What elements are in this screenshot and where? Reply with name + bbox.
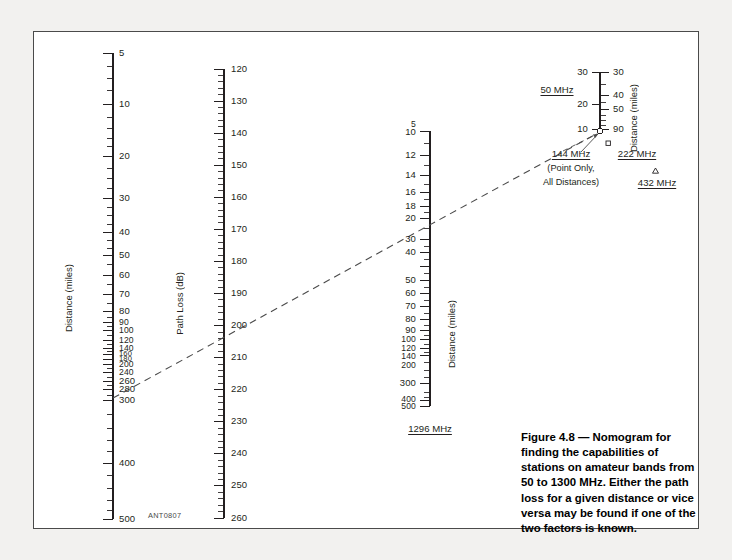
axis-3-tick-label: 40 <box>405 247 416 257</box>
axis-1-tick-label: 20 <box>119 151 130 161</box>
axis-1-tick-label: 500 <box>119 514 135 524</box>
axis-3-tick-label: 18 <box>405 201 416 211</box>
axis-3-tick-label: 60 <box>405 288 416 298</box>
axis-4-right-tick-label: 50 <box>613 104 624 114</box>
axis-2-tick-label: 190 <box>231 288 247 298</box>
axis-3-tick-label: 500 <box>401 402 416 411</box>
axis-3-tick-label: 300 <box>400 378 416 388</box>
axis-2-tick-label: 250 <box>231 480 247 490</box>
axis-3-tick-label: 200 <box>401 361 416 370</box>
axis-4-left-tick-label: 10 <box>577 124 588 134</box>
axis-1-tick-label: 40 <box>119 227 130 237</box>
axis-3-tick-label: 14 <box>405 170 416 180</box>
band-label-432: 432 MHz <box>638 177 676 188</box>
axis-1-tick-label: 60 <box>119 270 130 280</box>
band-label-144: 144 MHz <box>552 148 590 159</box>
axis-1-tick-label: 30 <box>119 193 130 203</box>
axis-2-tick-label: 220 <box>231 384 247 394</box>
axis-1-tick-label: 50 <box>119 250 130 260</box>
axis-2-tick-label: 260 <box>231 513 247 523</box>
axis-3-tick-label: 16 <box>405 187 416 197</box>
axis-1-tick-label: 10 <box>119 99 130 109</box>
axis-3-tick-label: 10 <box>405 127 416 137</box>
axis-2-tick-label: 210 <box>231 352 247 362</box>
axis-2-tick-label: 240 <box>231 448 247 458</box>
axis-1-tick-label: 400 <box>119 458 135 468</box>
axis-4-right-tick-label: 40 <box>613 90 624 100</box>
nomogram-text-layer: Distance (miles) 5 10 20 30 40 50 60 70 … <box>0 0 732 560</box>
band-note-144-line2: All Distances) <box>543 177 599 187</box>
axis-2-tick-label: 150 <box>231 160 247 170</box>
axis-1-title: Distance (miles) <box>63 264 74 332</box>
axis-2-tick-label: 140 <box>231 128 247 138</box>
axis-3-tick-label: 30 <box>405 234 416 244</box>
axis-1-tick-label: 80 <box>119 306 130 316</box>
band-note-144-line1: (Point Only, <box>547 163 594 173</box>
axis-4-right-tick-label: 90 <box>613 124 624 134</box>
axis-3-tick-label: 50 <box>405 275 416 285</box>
axis-1-tick-label: 70 <box>119 289 130 299</box>
band-label-222: 222 MHz <box>618 148 656 159</box>
figure-page: Distance (miles) 5 10 20 30 40 50 60 70 … <box>0 0 732 560</box>
axis-2-tick-label: 180 <box>231 256 247 266</box>
figure-caption: Figure 4.8 — Nomogram for finding the ca… <box>521 430 701 536</box>
axis-3-tick-label: 20 <box>405 213 416 223</box>
axis-1-tick-label: 300 <box>119 395 135 405</box>
axis-3-title: Distance (miles) <box>446 300 457 368</box>
axis-4-left-tick-label: 30 <box>577 67 588 77</box>
axis-3-tick-label: 70 <box>405 301 416 311</box>
axis-2-title: Path Loss (dB) <box>174 272 185 335</box>
axis-2-tick-label: 170 <box>231 224 247 234</box>
axis-3-tick-label: 80 <box>405 314 416 324</box>
axis-4-title: Distance (miles) <box>628 84 639 152</box>
axis-2-tick-label: 160 <box>231 192 247 202</box>
axis-1-tick-label: 100 <box>119 326 134 335</box>
axis-2-tick-label: 200 <box>231 320 247 330</box>
axis-1-tick-label: 280 <box>119 384 135 394</box>
band-label-50: 50 MHz <box>540 84 573 95</box>
band-label-1296: 1296 MHz <box>408 423 452 434</box>
axis-2-tick-label: 230 <box>231 416 247 426</box>
figure-id-code: ANT0807 <box>148 511 181 520</box>
axis-4-left-tick-label: 20 <box>577 99 588 109</box>
axis-2-tick-label: 130 <box>231 96 247 106</box>
axis-4-right-tick-label: 30 <box>613 67 624 77</box>
axis-2-tick-label: 120 <box>231 64 247 74</box>
axis-1-tick-label: 5 <box>119 48 124 58</box>
axis-3-tick-label: 12 <box>405 150 416 160</box>
